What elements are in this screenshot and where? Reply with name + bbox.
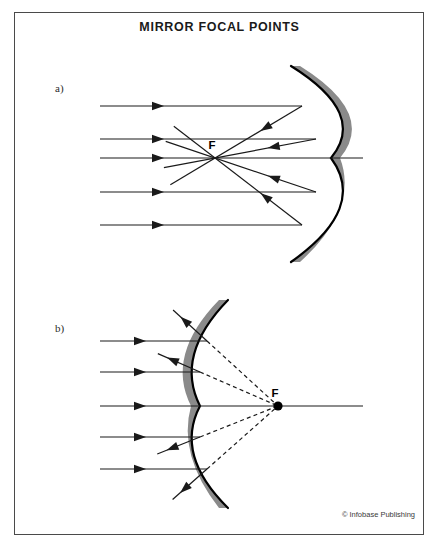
focal-point-dot bbox=[273, 401, 282, 410]
reflected-ray-arrowhead bbox=[258, 121, 273, 134]
ray-arrowhead bbox=[152, 188, 164, 196]
virtual-ray-dashed bbox=[200, 372, 278, 406]
ray-arrowhead bbox=[152, 102, 164, 110]
reflected-ray-arrowhead bbox=[267, 142, 280, 152]
mirror-body-convex bbox=[183, 300, 228, 508]
panel-b-convex-mirror: F bbox=[100, 300, 363, 508]
reflected-ray bbox=[166, 141, 316, 192]
ray-arrowhead bbox=[152, 154, 164, 162]
figure-page: MIRROR FOCAL POINTS a) b) F F © Infobase… bbox=[0, 0, 439, 546]
reflected-ray-arrowhead bbox=[165, 442, 179, 454]
copyright-credit: © Infobase Publishing bbox=[235, 510, 415, 519]
reflected-ray-arrowhead bbox=[267, 172, 281, 184]
reflected-ray bbox=[174, 126, 302, 225]
ray-arrowhead bbox=[152, 135, 164, 143]
virtual-ray-dashed bbox=[207, 341, 278, 406]
ray-arrowhead bbox=[134, 465, 146, 473]
virtual-ray-dashed bbox=[207, 406, 278, 469]
ray-arrowhead bbox=[134, 402, 146, 410]
mirror-diagram-svg: F F bbox=[0, 0, 439, 546]
mirror-body-concave bbox=[291, 66, 352, 262]
virtual-ray-dashed bbox=[200, 406, 278, 437]
ray-arrowhead bbox=[134, 368, 146, 376]
focal-point-label: F bbox=[271, 387, 278, 399]
reflected-ray-arrowhead bbox=[165, 354, 179, 366]
panel-a-concave-mirror: F bbox=[100, 66, 363, 262]
focal-point-label: F bbox=[208, 139, 215, 151]
ray-arrowhead bbox=[134, 433, 146, 441]
ray-arrowhead bbox=[134, 337, 146, 345]
reflected-ray bbox=[173, 469, 207, 500]
ray-arrowhead bbox=[152, 221, 164, 229]
